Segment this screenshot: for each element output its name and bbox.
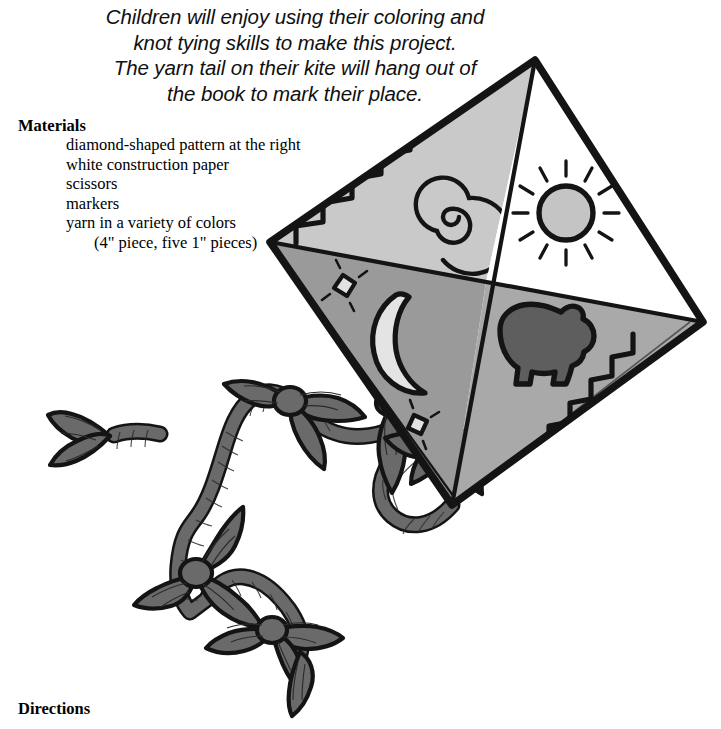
materials-item: (4" piece, five 1" pieces): [94, 233, 328, 253]
materials-item: markers: [66, 194, 328, 214]
bear-icon: [500, 304, 594, 384]
yarn-knot: [206, 617, 343, 693]
yarn-cord: [178, 392, 452, 654]
yarn-knot: [385, 426, 482, 494]
star-icon: [322, 260, 367, 311]
materials-list: diamond-shaped pattern at the right whit…: [66, 135, 328, 252]
intro-text: Children will enjoy using their coloring…: [30, 4, 560, 106]
yarn-tail-end: [289, 652, 313, 716]
yarn-tail: [48, 312, 482, 716]
yarn-bow-end: [404, 417, 460, 451]
yarn-cord-branch: [114, 431, 160, 435]
stair-step-zigzag: [528, 334, 633, 490]
star-icon: [396, 400, 439, 449]
materials-section: Materials diamond-shaped pattern at the …: [18, 116, 328, 252]
yarn-knot: [376, 312, 408, 493]
spiral-icon: [416, 178, 511, 274]
directions-heading: Directions: [18, 699, 90, 719]
materials-item: diamond-shaped pattern at the right: [66, 135, 328, 155]
crescent-moon-icon: [373, 294, 425, 393]
kite-edge-highlight: [470, 322, 690, 492]
kite-body: [270, 60, 703, 505]
yarn-knot: [134, 507, 262, 626]
kite-illustration: [0, 0, 721, 729]
kite-outline: [270, 60, 703, 505]
materials-heading: Materials: [18, 116, 328, 135]
worksheet-page: Children will enjoy using their coloring…: [0, 0, 721, 729]
intro-line: The yarn tail on their kite will hang ou…: [30, 55, 560, 81]
sun-icon: [513, 161, 619, 265]
intro-line: Children will enjoy using their coloring…: [30, 4, 560, 30]
materials-item: white construction paper: [66, 155, 328, 175]
kite-edge-highlight: [276, 250, 454, 497]
kite-quadrant-bottom-left: [270, 242, 486, 505]
yarn-bow-end: [48, 412, 110, 465]
intro-line: the book to mark their place.: [30, 81, 560, 107]
kite-quadrant-bottom-right: [452, 282, 703, 505]
materials-item: yarn in a variety of colors: [66, 213, 328, 233]
materials-item: scissors: [66, 174, 328, 194]
yarn-twist-lines: [117, 393, 444, 650]
kite-spars: [270, 60, 703, 505]
yarn-knot: [224, 381, 365, 469]
intro-line: knot tying skills to make this project.: [30, 30, 560, 56]
